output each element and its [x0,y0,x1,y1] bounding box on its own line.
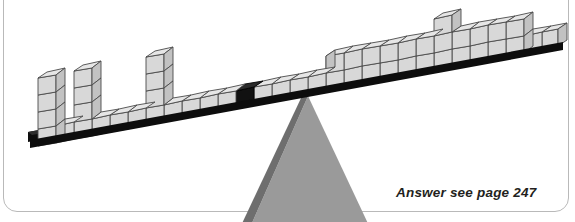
answer-reference-note: Answer see page 247 [396,185,561,200]
puzzle-page: Answer see page 247 [0,0,575,222]
triangular-fulcrum [238,96,372,222]
fulcrum-face [248,96,372,222]
answer-page-number: 247 [513,185,536,200]
answer-note-prefix: Answer see page [396,185,509,200]
cube-column-1-tower [38,68,65,146]
